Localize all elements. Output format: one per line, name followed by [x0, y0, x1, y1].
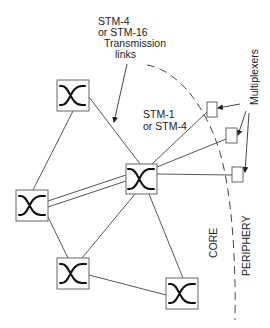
- core-region-label: CORE: [207, 228, 219, 258]
- multiplexer-3: [232, 167, 243, 182]
- link-center-mux3: [157, 174, 232, 175]
- switch-bottom-left: [57, 258, 89, 289]
- multiplexer-1: [207, 102, 217, 117]
- link-left-center-a: [48, 175, 126, 201]
- access-label-line1: STM-1: [143, 108, 175, 120]
- multiplexer-2: [226, 128, 237, 143]
- link-top-left: [33, 111, 73, 190]
- switch-left: [16, 190, 48, 221]
- link-bottomleft-bottomright: [89, 275, 166, 295]
- switch-top: [57, 80, 89, 111]
- switch-center: [126, 164, 157, 194]
- network-diagram: STM-4 or STM-16 Transmission links STM-1…: [0, 0, 270, 328]
- access-label-line2: or STM-4: [143, 120, 187, 132]
- link-center-bottomleft: [82, 194, 135, 258]
- link-left-center-b: [48, 181, 126, 207]
- link-top-center: [89, 97, 140, 164]
- multiplexers-label: Multiplexers: [248, 49, 260, 105]
- periphery-region-label: PERIPHERY: [240, 216, 252, 277]
- link-center-mux2: [157, 139, 226, 167]
- trunk-label-line4: links: [115, 48, 136, 60]
- trunk-label-arrow: [114, 64, 127, 122]
- switch-bottom-right: [166, 278, 198, 309]
- link-left-bottomleft: [48, 217, 68, 258]
- link-center-bottomright: [149, 194, 183, 278]
